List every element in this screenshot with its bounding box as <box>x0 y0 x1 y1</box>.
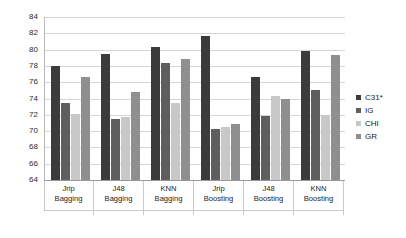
legend-item-label: IG <box>365 106 373 115</box>
legend-item: GR <box>356 131 404 142</box>
bar <box>311 90 320 180</box>
bar <box>121 117 130 180</box>
y-axis-tick-label: 64 <box>29 176 38 184</box>
legend-swatch-icon <box>356 134 361 139</box>
bar <box>301 51 310 180</box>
category-label-line2: Bagging <box>94 194 143 204</box>
legend-item-label: GR <box>365 132 377 141</box>
legend-item-label: C31* <box>365 93 383 102</box>
y-axis-tick-label: 70 <box>29 127 38 135</box>
category-label-line1: KNN <box>160 184 176 193</box>
bar-group <box>45 17 95 180</box>
bar-chart: 6466687072747678808284 JripBaggingJ48Bag… <box>0 0 406 238</box>
legend-item: IG <box>356 105 404 116</box>
bar-group <box>295 17 345 180</box>
category-label: J48Boosting <box>244 181 294 215</box>
category-label-line1: Jrip <box>62 184 74 193</box>
y-axis-tick-label: 80 <box>29 46 38 54</box>
bar <box>71 114 80 180</box>
legend-item-label: CHI <box>365 119 379 128</box>
category-label-line2: Bagging <box>144 194 193 204</box>
category-label-line1: J48 <box>112 184 124 193</box>
y-axis-tick-label: 72 <box>29 111 38 119</box>
category-label-line1: Jrip <box>212 184 224 193</box>
y-axis-tick-label: 84 <box>29 13 38 21</box>
bar <box>271 96 280 180</box>
legend-item: C31* <box>356 92 404 103</box>
bar <box>211 129 220 180</box>
bar <box>131 92 140 180</box>
bar <box>101 54 110 180</box>
category-label-line1: KNN <box>310 184 326 193</box>
y-axis-tick-label: 66 <box>29 160 38 168</box>
bar <box>221 127 230 180</box>
bar <box>281 99 290 180</box>
bar <box>321 115 330 180</box>
bar <box>231 124 240 180</box>
category-label-line2: Boosting <box>294 194 343 204</box>
y-axis-tick-label: 68 <box>29 143 38 151</box>
category-label-line1: J48 <box>262 184 274 193</box>
bar <box>331 55 340 181</box>
bar-group <box>195 17 245 180</box>
legend: C31*IGCHIGR <box>356 92 404 144</box>
category-label: KNNBoosting <box>294 181 344 215</box>
bar-group <box>95 17 145 180</box>
category-label-line2: Boosting <box>194 194 243 204</box>
category-label: KNNBagging <box>144 181 194 215</box>
bar <box>51 66 60 180</box>
plot-area <box>44 17 345 181</box>
category-label-line2: Boosting <box>244 194 293 204</box>
bar <box>111 119 120 180</box>
category-label-line2: Bagging <box>44 194 93 204</box>
bar-groups <box>45 17 345 180</box>
category-label: JripBagging <box>44 181 94 215</box>
bar-group <box>245 17 295 180</box>
legend-swatch-icon <box>356 95 361 100</box>
bar <box>61 103 70 180</box>
bar <box>171 103 180 180</box>
bar <box>161 63 170 180</box>
bar <box>181 59 190 180</box>
y-axis-tick-label: 76 <box>29 78 38 86</box>
y-axis-tick-label: 78 <box>29 62 38 70</box>
bar <box>201 36 210 180</box>
legend-item: CHI <box>356 118 404 129</box>
category-axis: JripBaggingJ48BaggingKNNBaggingJripBoost… <box>44 181 344 215</box>
category-label: J48Bagging <box>94 181 144 215</box>
bar-group <box>145 17 195 180</box>
bar <box>261 116 270 180</box>
y-axis: 6466687072747678808284 <box>0 17 40 180</box>
legend-swatch-icon <box>356 108 361 113</box>
bar <box>251 77 260 181</box>
bar <box>151 47 160 180</box>
legend-swatch-icon <box>356 121 361 126</box>
bar <box>81 77 90 180</box>
y-axis-tick-label: 74 <box>29 95 38 103</box>
category-label: JripBoosting <box>194 181 244 215</box>
y-axis-tick-label: 82 <box>29 29 38 37</box>
